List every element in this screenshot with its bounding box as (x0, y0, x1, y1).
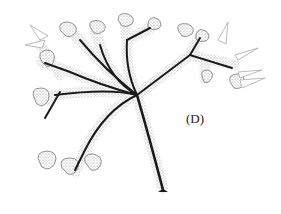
thallus-drawing (0, 0, 281, 214)
illustration-canvas: (D) (0, 0, 281, 214)
figure-label: (D) (186, 111, 204, 127)
